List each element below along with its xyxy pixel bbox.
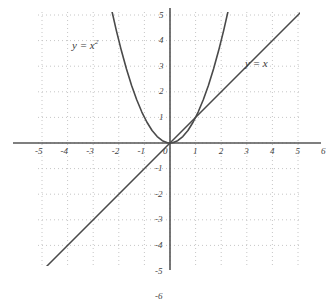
y-tick-label--2: -2 <box>155 190 163 199</box>
annotation-parabola-exponent: 2 <box>95 38 99 46</box>
x-tick-label--2: -2 <box>112 147 120 156</box>
x-tick-label--3: -3 <box>86 147 94 156</box>
annotation-line-text: y = x <box>245 57 268 69</box>
x-tick-label-0: 0 <box>163 147 168 156</box>
y-tick-label-1: 1 <box>159 113 164 122</box>
y-tick-label--5: -5 <box>155 267 163 276</box>
y-tick-label-4: 4 <box>159 36 164 45</box>
y-tick-label-3: 3 <box>159 62 164 71</box>
x-tick-label--5: -5 <box>35 147 43 156</box>
annotation-y-equals-x: y = x <box>245 58 268 69</box>
y-tick-label--3: -3 <box>155 215 163 224</box>
x-tick-label-5: 5 <box>296 147 301 156</box>
x-tick-label-2: 2 <box>219 147 224 156</box>
y-tick-label-2: 2 <box>159 87 164 96</box>
x-tick-label--1: -1 <box>137 147 145 156</box>
y-tick-label--4: -4 <box>155 241 163 250</box>
y-tick-label--1: -1 <box>155 164 163 173</box>
annotation-parabola-text: y = x <box>72 39 95 51</box>
y-tick-label-5: 5 <box>159 11 164 20</box>
annotation-y-equals-x-squared: y = x2 <box>72 40 98 51</box>
x-tick-label-4: 4 <box>270 147 275 156</box>
x-tick-label-1: 1 <box>193 147 198 156</box>
x-tick-label-6: 6 <box>321 147 326 156</box>
x-tick-label-3: 3 <box>244 147 249 156</box>
x-tick-label--4: -4 <box>61 147 69 156</box>
y-tick-label--6: -6 <box>155 292 163 301</box>
